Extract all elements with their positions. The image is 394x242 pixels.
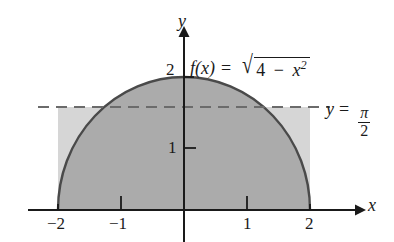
x-axis-label: x bbox=[368, 196, 376, 214]
radical-group: √ 4 − x2 bbox=[242, 57, 309, 79]
asymptote-equals: = bbox=[334, 100, 354, 118]
function-equals: = bbox=[215, 59, 237, 77]
function-label: f(x) = √ 4 − x2 bbox=[190, 57, 310, 79]
asymptote-lhs: y bbox=[326, 100, 334, 118]
asymptote-label: y = π 2 bbox=[326, 100, 370, 137]
x-tick-label-1: 1 bbox=[243, 215, 252, 232]
radicand-constant: 4 bbox=[256, 60, 265, 80]
x-tick-label--1: −1 bbox=[109, 215, 127, 232]
semicircle-area-figure: f(x) = √ 4 − x2 y = π 2 2 1 −2 −1 1 2 bbox=[0, 0, 394, 242]
pi-over-two-fraction: π 2 bbox=[358, 105, 370, 140]
radical-sign-icon: √ bbox=[242, 54, 253, 79]
y-tick-label-2: 2 bbox=[166, 61, 175, 78]
radicand-exponent: 2 bbox=[300, 58, 306, 72]
x-tick-label-2: 2 bbox=[305, 215, 314, 232]
fraction-numerator: π bbox=[358, 105, 370, 122]
radicand: 4 − x2 bbox=[254, 57, 309, 79]
y-axis-label: y bbox=[178, 12, 186, 30]
x-axis-arrowhead bbox=[355, 205, 366, 216]
function-lhs: f(x) bbox=[190, 59, 215, 77]
fraction-denominator: 2 bbox=[358, 122, 370, 140]
radicand-minus: − bbox=[270, 60, 288, 80]
y-tick-label-1: 1 bbox=[168, 139, 177, 156]
x-tick-label--2: −2 bbox=[47, 215, 65, 232]
